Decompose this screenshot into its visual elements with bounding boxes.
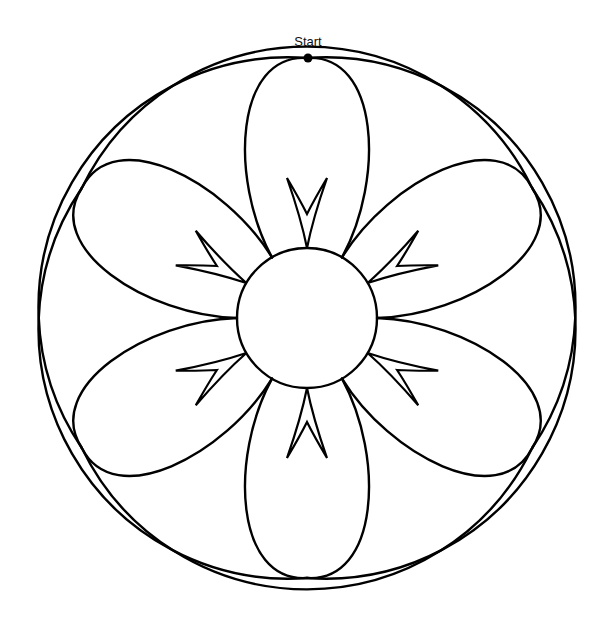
start-point-marker <box>304 54 313 63</box>
direction-arrow-icon <box>358 231 439 301</box>
flower-path-diagram: Start <box>0 0 614 623</box>
petal-loop <box>51 134 286 341</box>
direction-arrow-icon <box>358 336 439 406</box>
petals <box>51 58 564 578</box>
direction-arrow-icon <box>287 178 327 248</box>
outer-arcs <box>38 47 575 590</box>
center-circle <box>237 248 377 388</box>
direction-arrow-icon <box>287 388 327 458</box>
direction-arrow-icon <box>176 231 257 301</box>
petal-loop <box>51 295 286 502</box>
start-label: Start <box>294 34 322 49</box>
outer-arc <box>82 47 532 188</box>
outer-arc <box>82 448 532 589</box>
direction-arrow-icon <box>176 336 257 406</box>
petal-loop <box>328 295 563 502</box>
direction-arrows <box>176 178 438 458</box>
petal-loop <box>328 134 563 341</box>
